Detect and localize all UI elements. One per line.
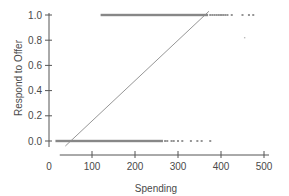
fit-line (65, 11, 209, 146)
x-axis: 0100200300400500 (46, 151, 273, 172)
x-axis-title: Spending (135, 183, 177, 194)
y-tick-label: 1.0 (28, 10, 42, 21)
y-axis-title: Respond to Offer (13, 39, 24, 116)
scatter-chart: 0.00.20.40.60.81.0 0100200300400500 Spen… (0, 0, 289, 196)
x-tick-label: 400 (213, 161, 230, 172)
x-tick-label: 100 (84, 161, 101, 172)
x-tick-label: 0 (46, 161, 52, 172)
x-tick-label: 200 (127, 161, 144, 172)
data-points (55, 14, 254, 142)
y-tick-label: 0.4 (28, 85, 42, 96)
x-tick-label: 300 (170, 161, 187, 172)
y-tick-label: 0.2 (28, 110, 42, 121)
y-tick-label: 0.0 (28, 136, 42, 147)
y-tick-label: 0.6 (28, 60, 42, 71)
y-axis: 0.00.20.40.60.81.0 (28, 10, 52, 148)
y-tick-label: 0.8 (28, 35, 42, 46)
x-tick-label: 500 (256, 161, 273, 172)
